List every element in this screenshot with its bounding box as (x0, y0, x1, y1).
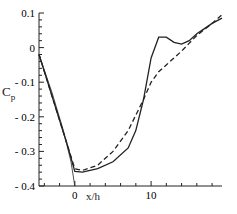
svg-text:0: 0 (30, 42, 36, 54)
svg-text:10: 10 (146, 189, 158, 201)
svg-text:0.1: 0.1 (21, 7, 35, 19)
svg-text:0: 0 (72, 189, 78, 201)
svg-text:- 0.2: - 0.2 (15, 111, 35, 123)
svg-text:- 0.4: - 0.4 (15, 180, 36, 192)
plot-area: 0.10- 0.1- 0.2- 0.3- 0.4010 (0, 0, 237, 214)
x-axis-label: x/h (86, 190, 100, 202)
y-axis-label: Cp (2, 84, 15, 102)
svg-text:- 0.1: - 0.1 (15, 76, 35, 88)
svg-text:- 0.3: - 0.3 (15, 145, 36, 157)
chart: 0.10- 0.1- 0.2- 0.3- 0.4010 x/h Cp (0, 0, 237, 214)
